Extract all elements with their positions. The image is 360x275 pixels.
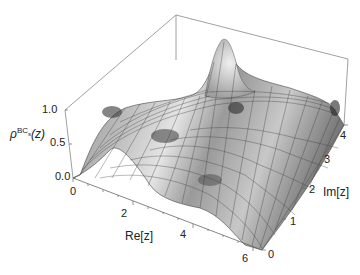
x-tick: 6 bbox=[242, 253, 248, 264]
y-tick: 1 bbox=[290, 216, 296, 227]
y-tick: 3 bbox=[324, 154, 330, 165]
y-tick: 2 bbox=[309, 184, 315, 195]
y-tick: 4 bbox=[340, 130, 346, 141]
x-axis-label: Re[z] bbox=[125, 230, 153, 242]
z-tick: 0.5 bbox=[50, 137, 65, 148]
x-tick: 2 bbox=[121, 208, 127, 219]
z-tick: 1.0 bbox=[42, 104, 57, 115]
y-axis-label: Im[z] bbox=[323, 186, 349, 198]
surface-mesh bbox=[73, 39, 344, 250]
z-axis-label: ρBCs(z) bbox=[10, 126, 45, 141]
z-tick: 0.0 bbox=[55, 171, 70, 182]
y-tick: 0 bbox=[268, 249, 274, 260]
x-tick: 0 bbox=[70, 186, 76, 197]
x-tick: 4 bbox=[180, 229, 186, 240]
